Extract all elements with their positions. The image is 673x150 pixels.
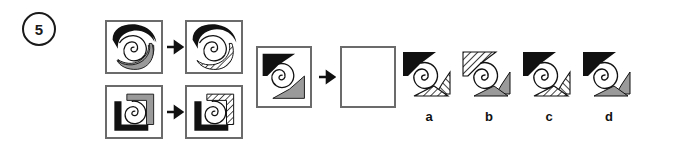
L-shape-top-right-hatched — [207, 94, 234, 124]
example-1-right-panel — [185, 20, 243, 74]
option-a-label: a — [419, 110, 439, 123]
option-c-label: c — [539, 110, 559, 123]
L-shape-top-right-gray — [127, 94, 154, 124]
question-number-text: 5 — [35, 22, 43, 37]
example-2-left-panel — [105, 85, 163, 139]
triangle-top-left-black — [263, 54, 296, 76]
option-d[interactable]: d — [580, 48, 638, 108]
puzzle-page: 5 — [0, 0, 673, 150]
empty-answer-box[interactable] — [340, 46, 396, 108]
option-d-label: d — [599, 110, 619, 123]
example-1-left-panel — [105, 20, 163, 74]
example-1-arrow — [166, 39, 184, 55]
question-number: 5 — [22, 12, 56, 46]
question-arrow — [318, 69, 336, 85]
crescent-bottom-right-hatched — [197, 43, 233, 69]
option-b[interactable]: b — [460, 48, 518, 108]
option-a[interactable]: a — [400, 48, 458, 108]
question-source-panel — [256, 46, 312, 108]
option-c[interactable]: c — [520, 48, 578, 108]
example-2-right-panel — [185, 85, 243, 139]
option-b-label: b — [479, 110, 499, 123]
example-2-arrow — [166, 104, 184, 120]
